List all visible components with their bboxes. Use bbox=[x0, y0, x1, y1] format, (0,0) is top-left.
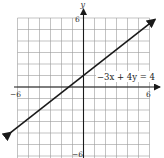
x-min-tick-label: −6 bbox=[10, 90, 21, 99]
y-min-tick-label: −6 bbox=[72, 150, 83, 158]
y-axis-name: y bbox=[80, 0, 86, 9]
y-max-tick-label: 6 bbox=[75, 15, 80, 24]
coordinate-graph: y 6 −6 −6 6 −3x + 4y = 4 bbox=[0, 0, 164, 158]
equation-label: −3x + 4y = 4 bbox=[97, 72, 155, 82]
x-max-tick-label: 6 bbox=[146, 90, 151, 99]
